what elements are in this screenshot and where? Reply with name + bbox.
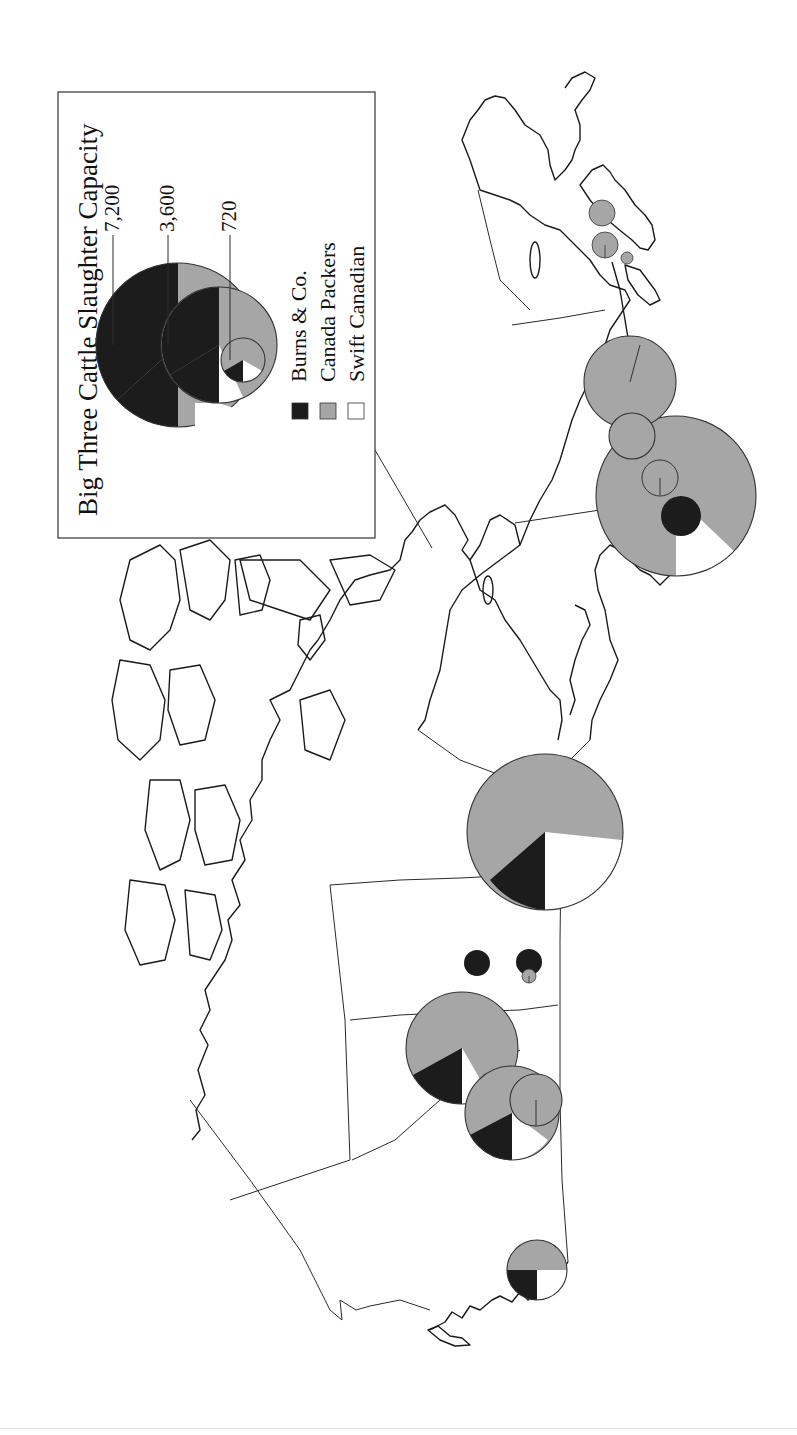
legend-label-swift: Swift Canadian [344, 246, 369, 382]
swatch-swift [348, 403, 364, 419]
bottom-rule [0, 1428, 797, 1429]
pie-maritimes-3[interactable] [621, 252, 633, 264]
northwest-territories-line [230, 1160, 350, 1200]
lake-winnipeg [483, 576, 493, 604]
james-bay-east [570, 605, 590, 715]
pie-sask-2[interactable] [516, 949, 542, 983]
swatch-burns [292, 403, 308, 419]
arctic-coastline [192, 532, 412, 1140]
yukon-alaska-border [190, 1100, 430, 1320]
map-pies [406, 200, 756, 1300]
legend: Big Three Cattle Slaughter Capacity [58, 92, 375, 538]
swatch-canada-packers [320, 403, 336, 419]
legend-scale-720: 720 [217, 201, 241, 233]
map-canvas: Big Three Cattle Slaughter Capacity [0, 0, 797, 1435]
pie-maritimes-2[interactable] [592, 232, 618, 258]
pie-maritimes-1[interactable] [589, 200, 615, 226]
pie-toronto-burns[interactable] [661, 496, 701, 536]
legend-scale-7200: 7,200 [100, 185, 124, 232]
pie-montreal[interactable] [609, 413, 655, 459]
pie-vancouver[interactable] [507, 1240, 567, 1300]
ungava-peninsula [505, 72, 595, 180]
legend-scale-3600: 3,600 [155, 185, 179, 232]
ontario-quebec-border [512, 310, 605, 325]
legend-title: Big Three Cattle Slaughter Capacity [73, 123, 103, 516]
lake-mistassini [530, 242, 540, 278]
leader-lines [375, 450, 600, 548]
pie-alberta-small[interactable] [510, 1074, 562, 1126]
vancouver-island [428, 1326, 470, 1346]
arctic-archipelago [112, 540, 395, 965]
legend-label-canada-packers: Canada Packers [315, 242, 340, 382]
yukon-nwt-border [330, 885, 350, 1160]
legend-label-burns: Burns & Co. [286, 270, 311, 382]
pie-winnipeg[interactable] [467, 754, 623, 910]
pie-sask-1[interactable] [464, 950, 490, 976]
